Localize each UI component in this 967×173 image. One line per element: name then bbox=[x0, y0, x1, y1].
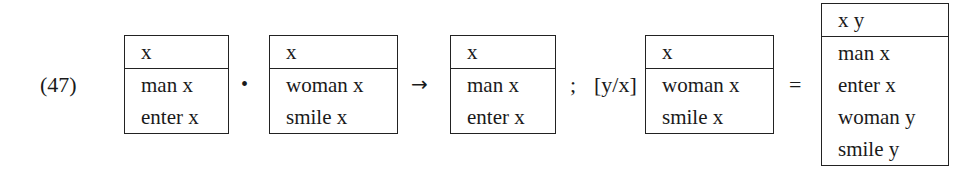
drs-conditions: woman x smile x bbox=[270, 69, 397, 133]
merge-operator: • bbox=[241, 73, 248, 95]
drs-conditions: man x enter x woman y smile y bbox=[822, 37, 948, 165]
drs-condition: man x bbox=[141, 69, 228, 101]
drs-universe: x bbox=[125, 36, 228, 69]
drs-box-2: x woman x smile x bbox=[269, 35, 398, 134]
substitution-operator: [y/x] bbox=[594, 74, 637, 96]
drs-conditions: man x enter x bbox=[125, 69, 228, 133]
drs-box-result: x y man x enter x woman y smile y bbox=[821, 3, 949, 166]
drs-condition: enter x bbox=[467, 101, 555, 133]
drs-box-3: x man x enter x bbox=[450, 35, 556, 134]
arrow-operator: → bbox=[411, 73, 428, 95]
semicolon-operator: ; bbox=[570, 74, 576, 96]
drs-box-1: x man x enter x bbox=[124, 35, 229, 134]
drs-conditions: man x enter x bbox=[451, 69, 555, 133]
drs-condition: smile x bbox=[286, 101, 397, 133]
drs-condition: smile x bbox=[662, 101, 773, 133]
drs-box-4: x woman x smile x bbox=[645, 35, 774, 134]
drs-universe: x bbox=[451, 36, 555, 69]
drs-condition: enter x bbox=[141, 101, 228, 133]
equals-operator: = bbox=[789, 74, 801, 96]
drs-universe: x y bbox=[822, 4, 948, 37]
drs-conditions: woman x smile x bbox=[646, 69, 773, 133]
drs-universe: x bbox=[270, 36, 397, 69]
drs-condition: enter x bbox=[838, 69, 948, 101]
drs-condition: man x bbox=[838, 37, 948, 69]
drs-condition: smile y bbox=[838, 133, 948, 165]
drs-condition: woman y bbox=[838, 101, 948, 133]
drs-condition: woman x bbox=[662, 69, 773, 101]
example-number: (47) bbox=[40, 74, 77, 96]
drs-condition: woman x bbox=[286, 69, 397, 101]
drs-universe: x bbox=[646, 36, 773, 69]
drs-condition: man x bbox=[467, 69, 555, 101]
